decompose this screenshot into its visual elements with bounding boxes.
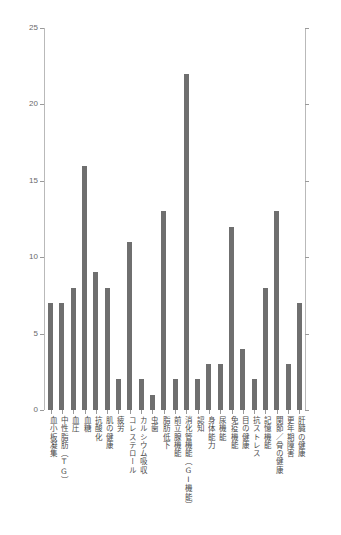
bar [116, 379, 121, 410]
x-tick-mark [118, 410, 119, 414]
x-axis-category-label: 免疫機能 [226, 416, 237, 449]
y-tick-mark [40, 257, 44, 258]
bar [184, 74, 189, 410]
bar [161, 211, 166, 410]
x-tick-mark [164, 410, 165, 414]
x-axis-category-labels: 血小板凝集中性脂肪（TG）血圧血糖抗酸化肌の健康疲労コレステロールカルシウム吸収… [45, 416, 305, 528]
y-tick-mark-right [305, 104, 309, 105]
y-tick-mark-right [305, 181, 309, 182]
y-tick-label: 25 [29, 24, 38, 32]
x-tick-mark [288, 410, 289, 414]
bar [82, 166, 87, 410]
bar [218, 364, 223, 410]
x-tick-mark [254, 410, 255, 414]
bar [206, 364, 211, 410]
bar [59, 303, 64, 410]
x-tick-mark [152, 410, 153, 414]
x-axis-category-label: 尿機能 [215, 416, 226, 441]
bar [127, 242, 132, 410]
x-axis-category-label: 中性脂肪（TG） [56, 416, 67, 484]
bar [229, 227, 234, 410]
x-axis-category-label: 疲労 [113, 416, 124, 433]
x-tick-mark [198, 410, 199, 414]
x-tick-mark [209, 410, 210, 414]
y-tick-mark-right [305, 410, 309, 411]
bar [252, 379, 257, 410]
x-tick-mark [85, 410, 86, 414]
x-axis-category-label: 脂肪低下 [158, 416, 169, 449]
bar [139, 379, 144, 410]
x-axis-category-label: 前立腺機能 [170, 416, 181, 458]
x-tick-mark [96, 410, 97, 414]
x-tick-mark [220, 410, 221, 414]
x-axis-category-label: 記憶機能 [260, 416, 271, 449]
y-tick-mark-right [305, 334, 309, 335]
bar [263, 288, 268, 410]
y-tick-mark-right [305, 257, 309, 258]
x-axis-category-label: 虫歯 [147, 416, 158, 433]
x-axis-category-label: 身体能力 [203, 416, 214, 449]
y-tick-label: 10 [29, 253, 38, 261]
x-axis-category-label: 肌の健康 [102, 416, 113, 449]
y-tick-mark [40, 28, 44, 29]
x-axis-category-label: 血圧 [68, 416, 79, 433]
bar [150, 395, 155, 410]
x-tick-mark [232, 410, 233, 414]
y-tick-mark [40, 334, 44, 335]
x-axis-category-label: 認知 [192, 416, 203, 433]
x-tick-mark [62, 410, 63, 414]
y-tick-mark [40, 181, 44, 182]
x-tick-mark [130, 410, 131, 414]
bar [195, 379, 200, 410]
bar [286, 364, 291, 410]
y-tick-label: 20 [29, 100, 38, 108]
y-tick-label: 15 [29, 177, 38, 185]
bar [274, 211, 279, 410]
x-axis-category-label: 抗酸化 [90, 416, 101, 441]
x-axis-category-label: 肝臓の健康 [294, 416, 305, 458]
x-axis-category-label: カルシウム吸収 [136, 416, 147, 474]
x-axis-category-label: コレステロール [124, 416, 135, 474]
bar [48, 303, 53, 410]
bar [240, 349, 245, 410]
x-axis-category-label: 抗ストレス [249, 416, 260, 458]
x-axis-category-label: 血糖 [79, 416, 90, 433]
x-tick-mark [175, 410, 176, 414]
bar [173, 379, 178, 410]
x-tick-mark [299, 410, 300, 414]
x-tick-mark [73, 410, 74, 414]
y-tick-label: 5 [34, 330, 38, 338]
x-axis-category-label: 更年期障害 [283, 416, 294, 458]
y-tick-label: 0 [34, 406, 38, 414]
y-tick-mark-right [305, 28, 309, 29]
bar-chart: 0510152025 血小板凝集中性脂肪（TG）血圧血糖抗酸化肌の健康疲労コレス… [0, 0, 341, 535]
bar-series [45, 28, 305, 410]
x-axis-category-label: 血小板凝集 [45, 416, 56, 458]
y-axis-right-spine [305, 28, 306, 410]
x-axis-category-label: 目の健康 [237, 416, 248, 449]
bar [93, 272, 98, 410]
plot-area: 0510152025 [44, 28, 306, 410]
x-tick-mark [51, 410, 52, 414]
x-tick-mark [243, 410, 244, 414]
x-tick-mark [186, 410, 187, 414]
x-axis-category-label: 消化管機能（GI機能） [181, 416, 192, 509]
bar [71, 288, 76, 410]
y-tick-mark [40, 104, 44, 105]
x-tick-mark [265, 410, 266, 414]
x-tick-mark [277, 410, 278, 414]
bar [105, 288, 110, 410]
y-tick-mark [40, 410, 44, 411]
x-tick-mark [141, 410, 142, 414]
bar [297, 303, 302, 410]
x-tick-mark [107, 410, 108, 414]
x-axis-category-label: 関節／骨の健康 [271, 416, 282, 474]
